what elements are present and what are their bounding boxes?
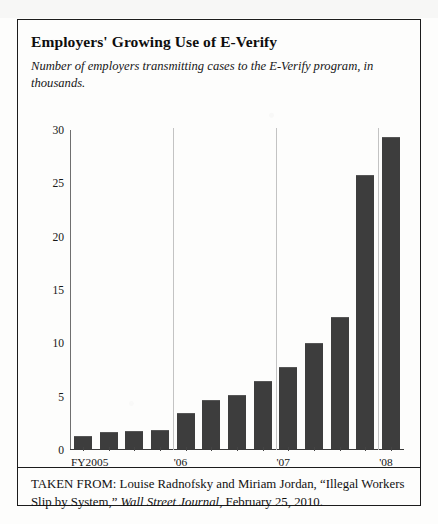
bar [382, 137, 400, 448]
x-axis-tick [186, 447, 187, 451]
bar [356, 175, 374, 449]
x-axis-tick [160, 447, 161, 451]
bar [202, 400, 220, 449]
x-axis-tick [263, 447, 264, 451]
bar [228, 395, 246, 448]
bar [151, 430, 169, 449]
x-axis-tick [365, 447, 366, 451]
x-axis-tick [134, 447, 135, 451]
bar [331, 317, 349, 449]
y-axis-tick-label: 20 [38, 230, 64, 243]
page-top-margin [0, 0, 438, 18]
plot-area: 051015202530FY2005'06'07'08 [70, 130, 404, 450]
bar [177, 413, 195, 449]
bar [100, 432, 118, 449]
source-suffix: , February 25, 2010. [219, 495, 323, 509]
x-axis-tick [314, 447, 315, 451]
x-axis-tick [288, 447, 289, 451]
y-axis-tick-label: 30 [38, 124, 64, 137]
figure-box: Employers' Growing Use of E-Verify Numbe… [17, 19, 421, 506]
y-axis-line [70, 130, 71, 450]
bar [125, 431, 143, 449]
y-axis-tick-label: 5 [38, 390, 64, 403]
y-axis-tick-label: 0 [38, 444, 64, 457]
x-axis-tick [340, 447, 341, 451]
source-publication: Wall Street Journal [121, 495, 220, 509]
y-axis-tick-label: 15 [38, 284, 64, 297]
bar [279, 367, 297, 449]
group-separator-line [276, 128, 277, 450]
x-axis-tick [391, 447, 392, 451]
bar-chart: 051015202530FY2005'06'07'08 [18, 20, 422, 470]
group-separator-line [173, 128, 174, 450]
source-attribution: TAKEN FROM: Louise Radnofsky and Miriam … [31, 475, 409, 511]
bar [305, 343, 323, 449]
x-axis-tick [109, 447, 110, 451]
x-axis-tick [211, 447, 212, 451]
y-axis-tick-label: 25 [38, 177, 64, 190]
x-axis-tick [237, 447, 238, 451]
group-separator-line [378, 128, 379, 450]
x-axis-tick [83, 447, 84, 451]
footer-divider [18, 467, 420, 468]
y-axis-tick-label: 10 [38, 337, 64, 350]
bar [254, 381, 272, 449]
